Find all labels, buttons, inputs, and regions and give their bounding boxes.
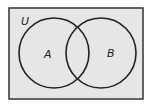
set-b-label: B bbox=[107, 47, 115, 60]
universe-rectangle bbox=[9, 8, 143, 99]
universe-label: U bbox=[21, 15, 29, 28]
venn-diagram: U A B bbox=[0, 0, 150, 104]
set-a-label: A bbox=[43, 48, 52, 61]
